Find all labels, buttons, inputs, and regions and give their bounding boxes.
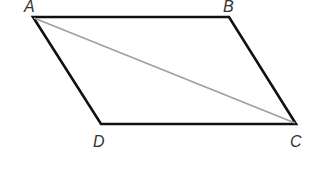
vertex-label-a: A (23, 0, 35, 15)
vertex-label-d: D (93, 133, 105, 150)
vertex-label-b: B (223, 0, 234, 15)
parallelogram-diagram: A B C D (0, 0, 325, 170)
vertex-label-c: C (290, 133, 302, 150)
diagonal-ac (34, 18, 295, 123)
